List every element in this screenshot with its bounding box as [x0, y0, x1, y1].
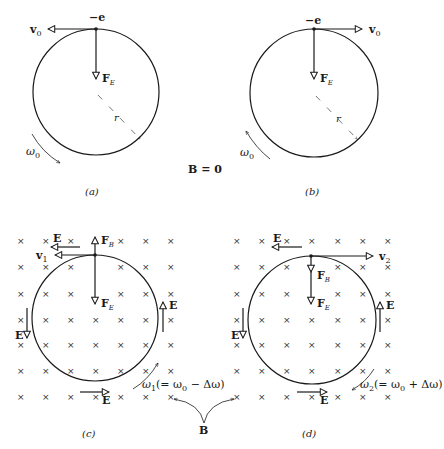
diamagnetism-figure: −e v0 FE r ω0 (a) B = 0 −e v0 FE r ω0 (b…: [0, 0, 444, 449]
velocity-label: v0: [368, 23, 381, 38]
e-field-label: E: [320, 394, 328, 407]
svg-text:×: ×: [334, 366, 342, 376]
svg-text:×: ×: [67, 262, 75, 272]
svg-text:×: ×: [334, 289, 342, 299]
charge-label: −e: [305, 14, 321, 27]
b-pointer-left: [174, 399, 204, 423]
svg-text:×: ×: [359, 236, 367, 246]
svg-text:×: ×: [142, 236, 150, 246]
svg-text:×: ×: [92, 340, 100, 350]
svg-text:×: ×: [334, 236, 342, 246]
svg-text:×: ×: [67, 315, 75, 325]
svg-text:×: ×: [359, 340, 367, 350]
svg-text:×: ×: [92, 315, 100, 325]
svg-text:×: ×: [334, 262, 342, 272]
svg-text:×: ×: [334, 392, 342, 402]
svg-text:×: ×: [117, 315, 125, 325]
svg-text:×: ×: [384, 392, 392, 402]
svg-text:×: ×: [233, 262, 241, 272]
b-field-pointer: B: [174, 399, 234, 437]
svg-text:×: ×: [42, 289, 50, 299]
svg-text:×: ×: [67, 236, 75, 246]
svg-text:×: ×: [92, 392, 100, 402]
svg-text:×: ×: [334, 315, 342, 325]
svg-text:×: ×: [283, 392, 291, 402]
svg-text:×: ×: [384, 315, 392, 325]
svg-text:×: ×: [42, 392, 50, 402]
svg-text:×: ×: [359, 289, 367, 299]
svg-text:×: ×: [117, 289, 125, 299]
velocity-label: v0: [29, 23, 42, 38]
svg-text:×: ×: [308, 392, 316, 402]
svg-text:×: ×: [258, 289, 266, 299]
svg-text:×: ×: [17, 366, 25, 376]
electric-force-label: FE: [102, 72, 115, 87]
svg-text:×: ×: [283, 340, 291, 350]
svg-text:×: ×: [233, 236, 241, 246]
svg-text:×: ×: [167, 262, 175, 272]
svg-text:×: ×: [384, 366, 392, 376]
velocity-label: v2: [378, 250, 391, 265]
magnetic-force-label: FB: [317, 269, 330, 284]
e-field-label: E: [386, 299, 394, 312]
svg-text:×: ×: [117, 236, 125, 246]
svg-text:×: ×: [17, 262, 25, 272]
svg-text:×: ×: [384, 340, 392, 350]
field-mark: ×: [17, 236, 25, 246]
svg-text:×: ×: [258, 315, 266, 325]
svg-text:×: ×: [384, 236, 392, 246]
charge-label: −e: [89, 11, 105, 24]
svg-text:×: ×: [67, 340, 75, 350]
radius-arrow: [98, 95, 140, 139]
omega-label: ω2(= ω0 + Δω): [360, 378, 443, 393]
svg-text:×: ×: [167, 392, 175, 402]
svg-text:×: ×: [258, 392, 266, 402]
svg-text:×: ×: [42, 315, 50, 325]
svg-text:×: ×: [17, 315, 25, 325]
svg-text:×: ×: [283, 315, 291, 325]
svg-text:×: ×: [142, 366, 150, 376]
svg-text:×: ×: [142, 262, 150, 272]
svg-text:×: ×: [334, 340, 342, 350]
svg-text:×: ×: [117, 262, 125, 272]
e-field-label: E: [102, 394, 110, 407]
svg-text:×: ×: [258, 340, 266, 350]
b-label: B: [199, 424, 208, 437]
svg-text:×: ×: [67, 392, 75, 402]
electric-force-label: FE: [320, 72, 333, 87]
e-field-label: E: [231, 329, 239, 342]
svg-text:×: ×: [359, 262, 367, 272]
svg-text:×: ×: [283, 236, 291, 246]
svg-text:×: ×: [167, 315, 175, 325]
svg-text:×: ×: [359, 315, 367, 325]
svg-text:×: ×: [142, 340, 150, 350]
velocity-label: v1: [35, 249, 48, 264]
e-field-label: E: [53, 232, 61, 245]
caption-b: (b): [305, 186, 319, 197]
panel-b: −e v0 FE r ω0 (b): [240, 14, 381, 197]
svg-text:×: ×: [233, 366, 241, 376]
svg-text:×: ×: [283, 262, 291, 272]
svg-text:×: ×: [42, 340, 50, 350]
svg-text:×: ×: [233, 315, 241, 325]
svg-text:×: ×: [67, 289, 75, 299]
svg-text:×: ×: [17, 392, 25, 402]
magnetic-force-label: FB: [101, 234, 114, 249]
svg-text:×: ×: [117, 392, 125, 402]
svg-text:×: ×: [167, 340, 175, 350]
svg-text:×: ×: [42, 366, 50, 376]
electric-force-label: FE: [317, 297, 330, 312]
omega-label: ω1(= ω0 − Δω): [142, 378, 225, 393]
radius-label: r: [114, 112, 120, 123]
svg-text:×: ×: [17, 289, 25, 299]
svg-text:×: ×: [258, 236, 266, 246]
svg-text:×: ×: [258, 366, 266, 376]
caption-c: (c): [82, 428, 96, 439]
svg-text:×: ×: [142, 289, 150, 299]
svg-text:×: ×: [308, 315, 316, 325]
svg-text:×: ×: [283, 366, 291, 376]
e-field-label: E: [15, 329, 23, 342]
svg-text:×: ×: [359, 366, 367, 376]
svg-text:×: ×: [117, 340, 125, 350]
svg-text:×: ×: [42, 236, 50, 246]
